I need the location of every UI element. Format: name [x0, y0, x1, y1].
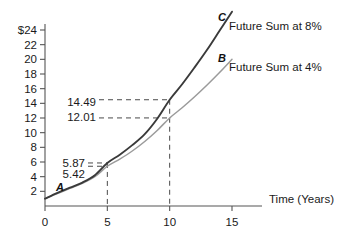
- annotation-label-542: 5.42: [63, 168, 85, 180]
- series-letter-b: B: [218, 52, 226, 64]
- x-tick-label: 15: [226, 216, 239, 228]
- chart-plot-area: 246810121416182022$24 051015 14.49 12.01…: [0, 0, 343, 241]
- y-tick-label: 16: [24, 83, 37, 95]
- y-tick-label: 6: [31, 156, 37, 168]
- y-tick-label: 8: [31, 141, 37, 153]
- series-caption-c: Future Sum at 8%: [229, 20, 322, 32]
- y-tick-label: 20: [24, 53, 37, 65]
- y-axis-tick-labels: 246810121416182022$24: [18, 24, 38, 197]
- x-tick-label: 0: [42, 216, 48, 228]
- y-tick-label: 4: [31, 171, 38, 183]
- y-tick-label: 18: [24, 68, 37, 80]
- y-tick-label: 14: [24, 97, 37, 109]
- x-tick-label: 5: [104, 216, 110, 228]
- y-tick-label: 10: [24, 127, 37, 139]
- series-letter-c: C: [218, 11, 227, 23]
- y-tick-label: 12: [24, 112, 37, 124]
- x-axis-tick-labels: 051015: [42, 216, 239, 228]
- x-axis-ticks: [45, 206, 232, 211]
- y-tick-label: $24: [18, 24, 38, 36]
- future-sum-chart: 246810121416182022$24 051015 14.49 12.01…: [0, 0, 343, 241]
- x-axis-title: Time (Years): [269, 193, 334, 205]
- y-axis-ticks: [40, 30, 45, 191]
- y-tick-label: 22: [24, 39, 37, 51]
- series-caption-b: Future Sum at 4%: [229, 61, 322, 73]
- point-label-a: A: [55, 181, 64, 193]
- x-tick-label: 10: [163, 216, 176, 228]
- y-tick-label: 2: [31, 185, 37, 197]
- annotation-label-1201: 12.01: [67, 111, 96, 123]
- annotation-label-1449: 14.49: [67, 96, 96, 108]
